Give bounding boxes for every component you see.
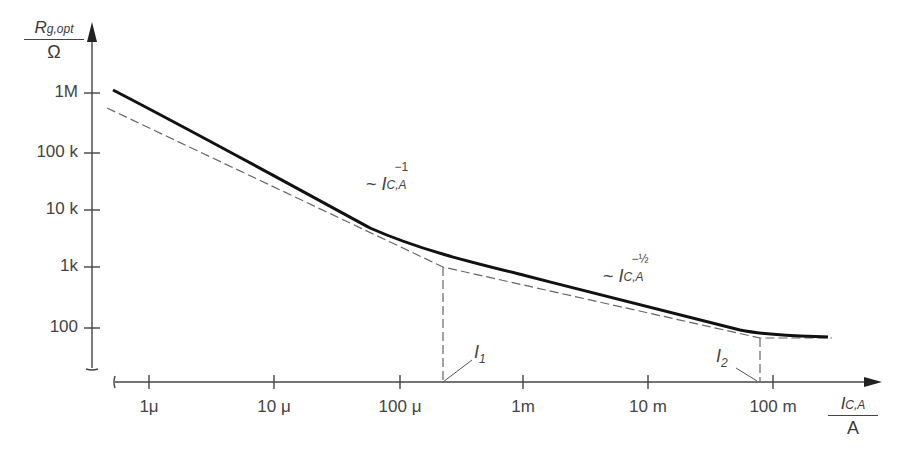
y-tick-1k: 1k	[18, 256, 78, 276]
x-tick-1u: 1μ	[114, 397, 184, 417]
x-axis	[114, 375, 882, 389]
slope-annotation-minus1: ~ I−1C,A	[366, 170, 421, 195]
y-tick-100: 100	[18, 317, 78, 337]
x-axis-title: IC,A A	[828, 394, 878, 439]
x-tick-10m: 10 m	[613, 397, 683, 417]
y-tick-10k: 10 k	[18, 199, 78, 219]
leader-lines	[443, 360, 757, 382]
x-tick-100m: 100 m	[738, 397, 808, 417]
y-tick-1M: 1M	[18, 82, 78, 102]
asymptote-lines	[107, 108, 832, 382]
x-tick-100u: 100 μ	[365, 397, 435, 417]
rgopt-curve	[113, 90, 828, 337]
y-axis	[84, 22, 100, 370]
y-axis-title: Rg,opt Ω	[24, 18, 84, 63]
y-tick-100k: 100 k	[18, 142, 78, 162]
label-i2: I2	[716, 346, 728, 367]
chart-canvas	[0, 0, 897, 457]
slope-annotation-minus-half: ~ I−½C,A	[603, 262, 658, 287]
label-i1: I1	[474, 342, 486, 363]
x-tick-10u: 10 μ	[239, 397, 309, 417]
x-tick-1m: 1m	[488, 397, 558, 417]
